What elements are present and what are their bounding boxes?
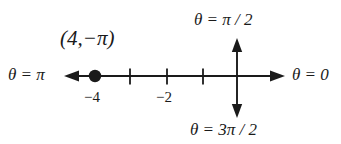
polar-axis-figure: θ = π θ = 0 θ = π / 2 θ = 3π / 2 (4,−π) … (0, 0, 341, 144)
left-arrowhead-icon (64, 71, 79, 82)
axis-label-theta-pi-half: θ = π / 2 (194, 11, 253, 28)
axis-drawing (0, 0, 341, 144)
up-arrowhead-icon (232, 38, 242, 52)
plotted-point-marker (89, 70, 101, 82)
right-arrowhead-icon (270, 71, 285, 82)
axis-label-theta-zero: θ = 0 (292, 66, 329, 83)
tick-label-negative-four: −4 (84, 90, 100, 105)
point-coordinate-label: (4,−π) (60, 28, 114, 49)
down-arrowhead-icon (232, 104, 242, 118)
axis-label-theta-pi: θ = π (8, 66, 45, 83)
axis-label-theta-three-pi-half: θ = 3π / 2 (190, 121, 257, 138)
tick-label-negative-two: −2 (156, 90, 172, 105)
